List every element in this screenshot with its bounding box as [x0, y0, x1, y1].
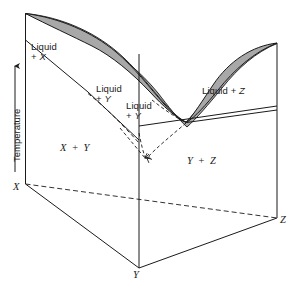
temperature-axis-label: Temperature — [11, 109, 22, 162]
vertex-label-y: Y — [133, 269, 139, 280]
region-label-x-plus-y: X + Y — [60, 142, 91, 153]
base-triangle — [26, 184, 278, 268]
region-label-liquid-plus-y-left: Liquid+ Y — [96, 84, 122, 105]
vertex-label-x: X — [13, 181, 19, 192]
region-label-liquid-plus-x: Liquid+ X — [31, 42, 57, 63]
region-label-y-plus-z: Y + Z — [187, 155, 217, 166]
region-label-liquid-plus-y-right: Liquid+ Y — [126, 101, 152, 122]
region-label-liquid-plus-z: Liquid + Z — [202, 86, 245, 96]
base-triangle-back-edge — [26, 184, 278, 218]
right-face — [139, 43, 277, 218]
vertex-label-z: Z — [280, 214, 286, 225]
phase-diagram-figure: Temperature Liquid+ X Liquid+ Y Liquid+ … — [0, 0, 297, 289]
